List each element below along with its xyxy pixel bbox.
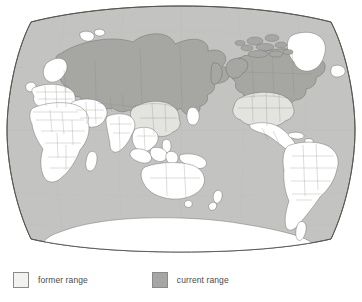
range-map-figure: former range current range	[0, 0, 362, 302]
legend-item-current-range: current range	[152, 272, 229, 288]
legend-label-current-range: current range	[177, 275, 229, 285]
world-map-svg	[0, 0, 362, 258]
region-japan	[187, 107, 199, 125]
legend-label-former-range: former range	[38, 275, 88, 285]
region-iceland	[331, 65, 345, 77]
current-range-swatch	[152, 272, 168, 288]
former-range-swatch	[13, 272, 29, 288]
world-map	[0, 0, 362, 258]
region-arctic-islet-a	[95, 29, 106, 36]
legend-item-former-range: former range	[13, 272, 88, 288]
map-legend: former range current range	[0, 258, 362, 302]
region-tasmania	[184, 200, 192, 207]
